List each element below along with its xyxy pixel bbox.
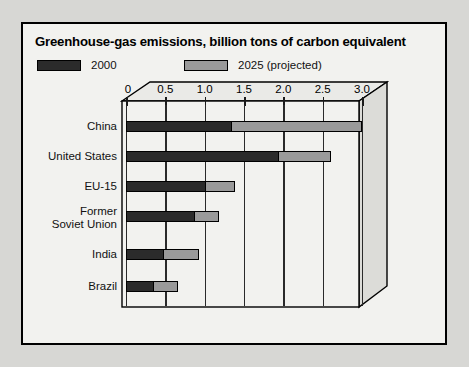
category-label: India (92, 248, 117, 260)
legend-label-2025: 2025 (projected) (238, 59, 322, 71)
legend-entry-2025: 2025 (projected) (184, 57, 322, 73)
category-label: United States (48, 150, 117, 162)
gridline (323, 105, 324, 306)
x-axis-tick-label: 1.5 (236, 83, 252, 95)
bar-segment-2000 (126, 281, 154, 292)
x-axis-tick-label: 2.0 (275, 83, 291, 95)
bar-segment-2000 (126, 211, 195, 222)
legend-label-2000: 2000 (91, 59, 117, 71)
gridline (244, 105, 245, 306)
x-axis-tick-label: 0 (125, 83, 131, 95)
category-label: FormerSoviet Union (52, 205, 117, 230)
legend-swatch-2025 (184, 60, 228, 71)
x-axis-tick-label: 0.5 (157, 83, 173, 95)
gridline (283, 105, 284, 306)
x-axis-tick-label: 3.0 (354, 83, 370, 95)
bar-row: Brazil (126, 281, 362, 292)
gridline (205, 105, 206, 306)
gridline (362, 105, 363, 306)
bar-segment-2000 (126, 181, 206, 192)
x-axis-tick-label: 2.5 (315, 83, 331, 95)
bar-row: India (126, 249, 362, 260)
bar-segment-2000 (126, 151, 279, 162)
gridline (165, 105, 166, 306)
bar-row: China (126, 121, 362, 132)
bar-row: United States (126, 151, 362, 162)
chart-figure: Greenhouse-gas emissions, billion tons o… (21, 22, 447, 345)
bar-row: FormerSoviet Union (126, 211, 362, 222)
legend-entry-2000: 2000 (37, 57, 117, 73)
x-axis-tick-label: 1.0 (197, 83, 213, 95)
chart-title: Greenhouse-gas emissions, billion tons o… (35, 34, 406, 49)
gridline (126, 105, 127, 306)
bar-segment-2000 (126, 249, 164, 260)
bar-segment-2000 (126, 121, 232, 132)
legend-swatch-2000 (37, 60, 81, 71)
plot-area: 00.51.01.52.02.53.0ChinaUnited StatesEU-… (126, 105, 392, 306)
category-label: Brazil (88, 280, 117, 292)
category-label: EU-15 (84, 180, 117, 192)
category-label: China (87, 120, 117, 132)
bar-row: EU-15 (126, 181, 362, 192)
